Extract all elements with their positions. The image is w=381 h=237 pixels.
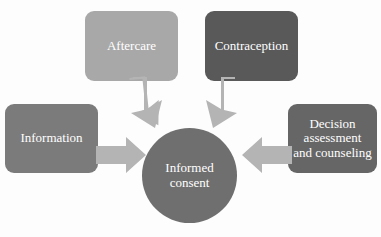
node-informed-consent-line-1: Informed <box>165 160 213 175</box>
node-information-label: Information <box>20 131 82 146</box>
node-decision-line-2: assessment <box>304 130 362 145</box>
node-decision-assessment: Decision assessment and counseling <box>288 104 377 173</box>
node-information: Information <box>5 104 98 173</box>
node-contraception: Contraception <box>205 11 298 81</box>
arrow-contraception-to-center-icon <box>196 76 240 130</box>
node-aftercare-label: Aftercare <box>107 39 156 54</box>
arrow-aftercare-to-center-icon <box>128 76 172 130</box>
arrow-decision-to-center-icon <box>240 136 292 176</box>
arrow-information-to-center-icon <box>96 136 148 176</box>
node-informed-consent: Informed consent <box>142 128 237 223</box>
node-contraception-label: Contraception <box>215 39 289 54</box>
diagram-canvas: Aftercare Contraception Information Deci… <box>0 0 381 237</box>
node-aftercare: Aftercare <box>85 11 178 81</box>
node-informed-consent-label: Informed consent <box>165 161 213 191</box>
node-informed-consent-line-2: consent <box>170 175 210 190</box>
node-decision-line-3: and counseling <box>293 145 371 160</box>
node-decision-assessment-label: Decision assessment and counseling <box>293 117 371 161</box>
node-decision-line-1: Decision <box>309 116 355 131</box>
